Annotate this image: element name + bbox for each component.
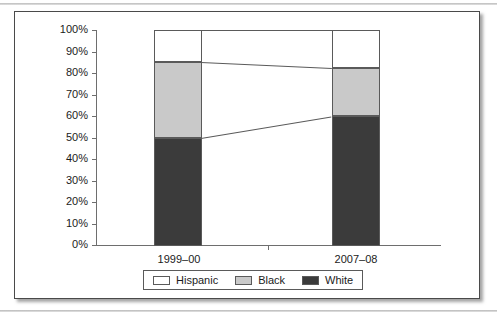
legend-swatch-black-icon <box>235 276 252 285</box>
connector-black-top <box>201 62 332 69</box>
legend-swatch-white-icon <box>302 276 319 285</box>
y-tick-80 <box>92 73 96 74</box>
legend-item-white[interactable]: White <box>302 275 353 286</box>
chart-legend: Hispanic Black White <box>143 270 363 290</box>
bar-segment-hispanic-1999-00 <box>154 30 202 62</box>
legend-label-white: White <box>325 275 353 286</box>
scan-artifact-bottom <box>0 310 497 312</box>
y-tick-50 <box>92 138 96 139</box>
x-tick-midpoint <box>268 245 269 250</box>
y-axis-label-50: 50% <box>28 132 88 143</box>
y-tick-100 <box>92 30 96 31</box>
y-tick-30 <box>92 181 96 182</box>
y-axis-label-30: 30% <box>28 175 88 186</box>
figure-frame: 100% 90% 80% 70% 60% 50% 40% 30% 20% 10%… <box>14 11 480 299</box>
y-tick-60 <box>92 116 96 117</box>
y-tick-10 <box>92 224 96 225</box>
bar-segment-white-1999-00 <box>154 138 202 246</box>
connector-white-top <box>201 116 331 138</box>
y-tick-90 <box>92 52 96 53</box>
y-axis-label-70: 70% <box>28 89 88 100</box>
y-axis-label-40: 40% <box>28 153 88 164</box>
y-tick-0 <box>92 245 96 246</box>
bar-segment-black-2007-08 <box>332 68 380 116</box>
y-axis-label-90: 90% <box>28 46 88 57</box>
x-axis-label-2007-08: 2007–08 <box>311 253 401 265</box>
y-axis-label-10: 10% <box>28 218 88 229</box>
connector-hispanic-top <box>201 30 332 31</box>
legend-label-black: Black <box>258 275 285 286</box>
y-axis-label-0: 0% <box>28 239 88 250</box>
stacked-bar-chart: 100% 90% 80% 70% 60% 50% 40% 30% 20% 10%… <box>15 12 481 300</box>
legend-label-hispanic: Hispanic <box>176 275 218 286</box>
y-axis-label-100: 100% <box>28 24 88 35</box>
bar-segment-black-1999-00 <box>154 62 202 138</box>
y-axis-label-80: 80% <box>28 67 88 78</box>
y-tick-20 <box>92 202 96 203</box>
legend-item-hispanic[interactable]: Hispanic <box>153 275 218 286</box>
bar-segment-white-2007-08 <box>332 116 380 246</box>
y-axis-label-20: 20% <box>28 196 88 207</box>
legend-swatch-hispanic-icon <box>153 276 170 285</box>
scan-artifact-top <box>0 3 497 5</box>
x-axis-label-1999-00: 1999–00 <box>134 253 224 265</box>
y-axis-label-60: 60% <box>28 110 88 121</box>
legend-item-black[interactable]: Black <box>235 275 285 286</box>
bar-segment-hispanic-2007-08 <box>332 30 380 68</box>
y-axis-line <box>96 30 97 246</box>
y-tick-70 <box>92 95 96 96</box>
y-tick-40 <box>92 159 96 160</box>
